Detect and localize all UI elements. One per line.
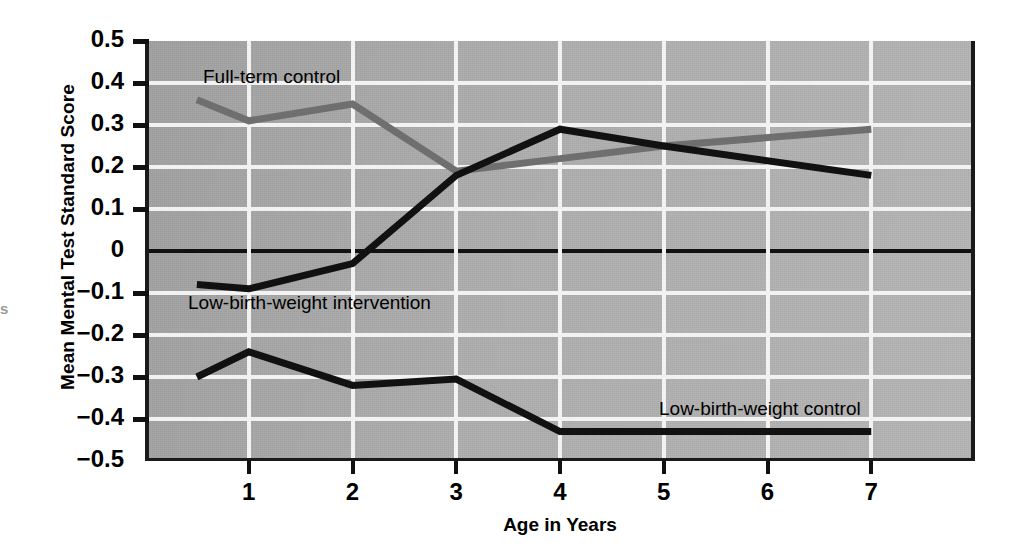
x-axis-tick-label: 6 [738,478,798,506]
y-axis-tick-label: 0.2 [6,151,124,179]
y-axis-tick-label: 0.3 [6,109,124,137]
y-axis-tick-label: −0.2 [6,319,124,347]
x-axis-tick [662,461,666,474]
y-axis-tick [133,165,149,170]
y-axis-tick-label: −0.3 [6,361,124,389]
x-axis-tick [247,461,251,474]
series-label-full-term-control: Full-term control [203,66,340,88]
y-axis-tick-label: −0.4 [6,403,124,431]
y-axis-tick-label: 0.4 [6,67,124,95]
x-axis-tick [454,461,458,474]
x-axis-tick-label: 2 [323,478,383,506]
y-axis-tick [133,291,149,296]
y-axis-tick [133,333,149,338]
series-label-low-birth-weight-control: Low-birth-weight control [659,398,861,420]
y-axis-tick [133,207,149,212]
series-label-low-birth-weight-intervention: Low-birth-weight intervention [188,292,431,314]
x-axis-tick-label: 3 [426,478,486,506]
y-axis-tick [133,39,149,44]
x-axis-tick-label: 4 [530,478,590,506]
x-axis-tick [766,461,770,474]
y-axis-tick [133,375,149,380]
y-axis-tick [133,417,149,422]
y-axis-tick [133,123,149,128]
y-axis-tick-label: 0.1 [6,193,124,221]
y-axis-tick-label: −0.1 [6,277,124,305]
x-axis-tick [558,461,562,474]
y-axis-tick-label: 0 [6,235,124,263]
series-line-low-birth-weight-intervention [197,129,871,289]
y-axis-tick-label: −0.5 [6,445,124,473]
chart-figure: s Mean Mental Test Standard Score 0.50.4… [0,0,1018,552]
y-axis-tick-label: 0.5 [6,25,124,53]
x-axis-title: Age in Years [145,514,975,536]
x-axis-tick-label: 7 [841,478,901,506]
y-axis-tick [133,81,149,86]
x-axis-tick-label: 5 [634,478,694,506]
x-axis-tick-label: 1 [219,478,279,506]
x-axis-tick [869,461,873,474]
x-axis-tick [351,461,355,474]
